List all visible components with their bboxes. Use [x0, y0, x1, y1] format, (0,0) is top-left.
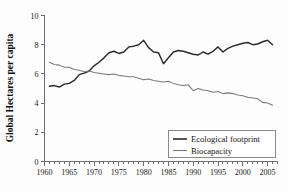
- y-axis-tick-labels: 0246810: [31, 12, 39, 167]
- legend-label-ecological-footprint: Ecological footprint: [191, 134, 261, 144]
- y-tick-label: 8: [35, 41, 39, 50]
- x-tick-label: 1960: [37, 168, 53, 177]
- y-axis-ticks: [41, 16, 45, 162]
- x-tick-label: 1975: [111, 168, 127, 177]
- y-tick-label: 0: [35, 158, 39, 167]
- x-tick-label: 1965: [61, 168, 77, 177]
- legend-label-biocapacity: Biocapacity: [191, 146, 233, 156]
- x-axis-ticks: [45, 162, 278, 167]
- x-axis-tick-labels: 1960196519701975198019851990199520002005: [37, 168, 276, 177]
- x-tick-label: 2005: [260, 168, 276, 177]
- chart-figure: 0246810 19601965197019751980198519901995…: [0, 0, 288, 192]
- chart-legend: Ecological footprint Biocapacity: [169, 131, 276, 158]
- y-tick-label: 10: [31, 12, 39, 21]
- y-axis-title: Global Hectares per capita: [5, 33, 15, 142]
- y-tick-label: 2: [35, 128, 39, 137]
- x-tick-label: 1985: [160, 168, 176, 177]
- series-line-ecological-footprint: [49, 40, 272, 87]
- x-tick-label: 1990: [185, 168, 201, 177]
- series-line-biocapacity: [49, 62, 272, 105]
- y-tick-label: 6: [35, 70, 39, 79]
- x-tick-label: 2000: [235, 168, 251, 177]
- x-tick-label: 1980: [136, 168, 152, 177]
- line-chart: 0246810 19601965197019751980198519901995…: [0, 0, 288, 192]
- x-tick-label: 1995: [210, 168, 226, 177]
- y-tick-label: 4: [35, 99, 39, 108]
- x-tick-label: 1970: [86, 168, 102, 177]
